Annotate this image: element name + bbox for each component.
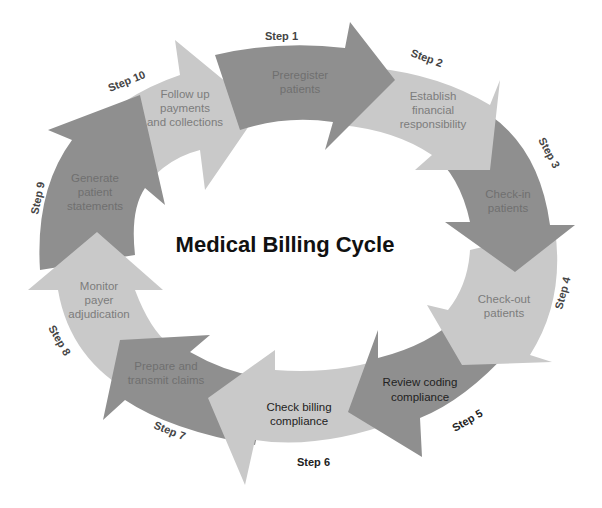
svg-text:Monitor: Monitor <box>80 280 119 292</box>
step-label-5: Step 5 <box>450 407 485 434</box>
step-label-8: Step 8 <box>46 323 73 358</box>
diagram-title: Medical Billing Cycle <box>176 232 395 257</box>
svg-text:Check billing: Check billing <box>266 401 331 413</box>
svg-text:Review coding: Review coding <box>383 376 458 388</box>
svg-text:Check-in: Check-in <box>485 188 530 200</box>
svg-text:financial: financial <box>412 104 454 116</box>
svg-text:Generate: Generate <box>71 172 119 184</box>
svg-text:Check-out: Check-out <box>478 293 531 305</box>
svg-text:transmit claims: transmit claims <box>128 374 205 386</box>
svg-text:Preregister: Preregister <box>272 69 328 81</box>
svg-text:Prepare and: Prepare and <box>134 360 197 372</box>
svg-text:responsibility: responsibility <box>400 118 467 130</box>
svg-text:patients: patients <box>280 83 321 95</box>
svg-text:compliance: compliance <box>270 415 328 427</box>
svg-text:Establish: Establish <box>410 90 457 102</box>
svg-text:and collections: and collections <box>147 116 223 128</box>
step-label-3: Step 3 <box>536 135 562 170</box>
svg-text:statements: statements <box>67 200 123 212</box>
svg-text:payer: payer <box>85 294 114 306</box>
step-label-6: Step 6 <box>297 456 330 468</box>
svg-text:adjudication: adjudication <box>68 308 129 320</box>
svg-text:patients: patients <box>488 202 529 214</box>
svg-text:compliance: compliance <box>391 391 449 403</box>
step-label-2: Step 2 <box>409 47 444 70</box>
svg-text:patients: patients <box>484 307 525 319</box>
svg-text:Follow up: Follow up <box>160 88 209 100</box>
step-label-1: Step 1 <box>265 30 298 42</box>
billing-cycle-diagram: Medical Billing Cycle Preregister patien… <box>0 0 602 508</box>
svg-text:payments: payments <box>160 102 210 114</box>
svg-text:patient: patient <box>78 186 113 198</box>
step-label-10: Step 10 <box>106 68 147 94</box>
